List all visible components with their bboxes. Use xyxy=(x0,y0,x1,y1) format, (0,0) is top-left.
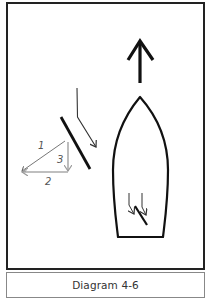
sail-line xyxy=(61,117,90,169)
force-triangle: 1 3 2 xyxy=(22,140,68,187)
vector-1-label: 1 xyxy=(38,140,44,151)
vector-2-label: 2 xyxy=(45,176,51,187)
boat-sail-symbol-icon xyxy=(129,193,147,225)
vector-3-label: 3 xyxy=(57,154,63,165)
heading-arrow-icon xyxy=(128,41,153,83)
diagram-caption: Diagram 4-6 xyxy=(72,279,139,291)
wind-arrow-icon xyxy=(77,88,96,147)
caption-box: Diagram 4-6 xyxy=(6,272,205,298)
